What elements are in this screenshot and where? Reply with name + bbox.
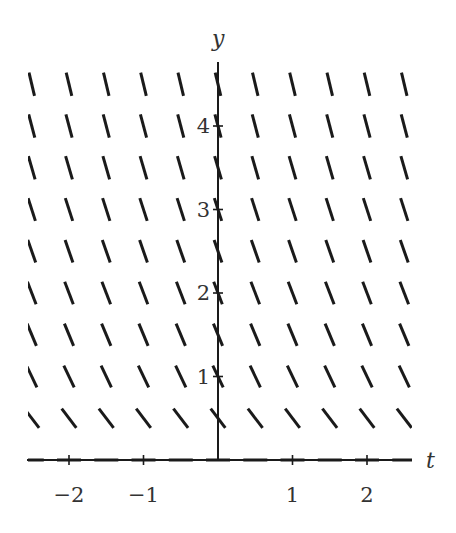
slope-segment (29, 114, 35, 137)
slope-segment (364, 156, 371, 179)
t-tick-label: −2 (54, 483, 85, 507)
slope-segment (289, 198, 296, 221)
slope-segment (289, 240, 297, 263)
slope-segment (251, 240, 259, 263)
y-tick-label: 3 (197, 198, 210, 222)
slope-segment (101, 366, 111, 388)
y-tick-label: 1 (197, 365, 210, 389)
slope-segment (139, 324, 148, 346)
slope-segment (399, 366, 409, 388)
slope-segment (66, 156, 73, 179)
slope-segment (64, 324, 73, 346)
slope-segment (250, 366, 260, 388)
slope-segment (65, 282, 74, 304)
slope-segment (326, 156, 333, 179)
slope-segment (402, 73, 408, 96)
slope-segment (27, 282, 36, 304)
slope-segment (27, 366, 37, 388)
slope-segment (288, 324, 297, 346)
slope-segment (248, 409, 263, 428)
slope-segment (363, 282, 372, 304)
slope-segment (139, 282, 148, 304)
slope-segment (28, 198, 35, 221)
slope-segment (177, 240, 185, 263)
slope-segment (140, 198, 147, 221)
slope-segment (28, 240, 36, 263)
t-tick-label: −1 (128, 483, 159, 507)
slope-segment (252, 156, 259, 179)
slope-segment (325, 324, 334, 346)
slope-segment (138, 366, 148, 388)
slope-segment (289, 114, 295, 137)
slope-segment (401, 156, 408, 179)
t-tick-label: 1 (286, 483, 299, 507)
slope-segment (99, 409, 114, 428)
slope-segment (64, 366, 74, 388)
slope-segment (173, 409, 188, 428)
slope-segment (102, 324, 111, 346)
slope-segment (66, 73, 72, 96)
slope-segment (177, 198, 184, 221)
slope-segment (103, 156, 110, 179)
slope-segment (28, 156, 35, 179)
slope-segment (364, 114, 370, 137)
slope-segment (176, 324, 185, 346)
slope-segment (176, 282, 185, 304)
slope-segment (290, 73, 296, 96)
slope-segment (136, 409, 151, 428)
slope-segment (362, 324, 371, 346)
slope-segment (252, 198, 259, 221)
slope-segment (176, 366, 186, 388)
t-tick-label: 2 (360, 483, 373, 507)
slope-segment (178, 73, 184, 96)
slope-segment (364, 73, 370, 96)
slope-segment (102, 240, 110, 263)
slope-segment (103, 114, 109, 137)
slope-segment (140, 156, 147, 179)
slope-segment (140, 114, 146, 137)
slope-segment (103, 198, 110, 221)
slope-segment (327, 114, 333, 137)
t-axis-ticks: −2−112 (54, 455, 374, 507)
slope-segment (66, 114, 72, 137)
slope-segment (251, 282, 260, 304)
slope-segment (288, 282, 297, 304)
slope-segment (62, 409, 77, 428)
slope-segment (253, 73, 259, 96)
slope-segment (104, 73, 110, 96)
slope-segment (141, 73, 147, 96)
slope-segment (397, 409, 412, 428)
slope-segment (29, 73, 35, 96)
slope-segment (400, 282, 409, 304)
slope-segment (289, 156, 296, 179)
slope-segment (325, 366, 335, 388)
slope-segment (360, 409, 375, 428)
t-axis-label: t (426, 448, 435, 473)
slope-segment (252, 114, 258, 137)
slope-segment (322, 409, 337, 428)
slope-segment (287, 366, 297, 388)
slope-segment (65, 240, 73, 263)
slope-segment (102, 282, 111, 304)
slope-segment (285, 409, 300, 428)
slope-segment (401, 198, 408, 221)
y-tick-label: 2 (197, 281, 210, 305)
slope-segment (326, 198, 333, 221)
slope-segment (362, 366, 372, 388)
slope-segment (140, 240, 148, 263)
slope-segment (178, 114, 184, 137)
slope-segment (363, 240, 371, 263)
slope-segment (251, 324, 260, 346)
slope-segment (326, 240, 334, 263)
y-axis-label: y (211, 26, 225, 51)
slope-segment (325, 282, 334, 304)
slope-segment (65, 198, 72, 221)
slope-segment (177, 156, 184, 179)
slope-segment (327, 73, 333, 96)
slope-segment (401, 114, 407, 137)
slope-segment (400, 240, 408, 263)
y-tick-label: 4 (197, 114, 210, 138)
slope-field-chart: −2−112 1234 t y (0, 0, 456, 533)
slope-segment (24, 409, 39, 428)
slope-segment (400, 324, 409, 346)
